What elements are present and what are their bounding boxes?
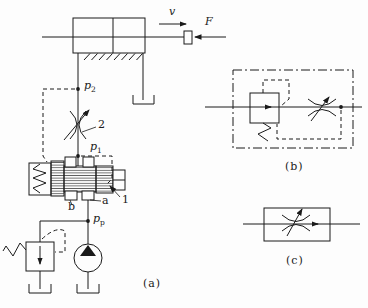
spring [258,123,271,141]
adjust-arrow [311,97,329,121]
hydraulic-circuit-figure: v F p2 p1 pp 2 1 b a (a) (b) (c) [0,0,368,308]
pump [74,244,102,272]
caption-a: (a) [143,278,161,289]
throttle-valve-2 [64,110,96,140]
port-b-label: b [68,201,75,212]
pressure-label-p1: p1 [90,141,102,155]
port-a-label: a [102,195,109,206]
adjust-arrow [64,110,89,140]
pressure-reducing-valve [250,93,279,141]
component-boundary [233,70,353,148]
return-line-tank [133,53,154,104]
velocity-text: v [169,5,175,18]
leader-a [90,200,101,201]
pressure-label-pp: pp [93,213,105,227]
caption-c: (c) [286,255,304,266]
node-pp [86,219,90,223]
port-b [65,191,77,200]
spring-chamber [29,163,51,195]
pressure-label-p2: p2 [84,80,96,94]
p2-sub: 2 [91,85,96,94]
adjust-arrow [287,209,302,236]
node-p1 [76,154,80,158]
pp-sub: p [100,218,105,227]
velocity-label: v [169,6,175,17]
pp-base: p [93,212,100,225]
flow-control-valve-1 [29,157,125,205]
throttle-symbol [282,209,310,236]
spring [33,164,46,193]
ground-hatching [84,54,143,61]
force-text: F [205,15,213,28]
valve-number-label: 1 [122,194,129,205]
caption-b: (b) [285,161,304,172]
throttle-number-label: 2 [98,119,105,130]
pilot-line-outlet [277,110,341,139]
top-port-left [65,157,76,167]
valve-body [64,166,96,192]
throttle-symbol [308,97,336,121]
pilot-line-p2 [43,89,75,162]
node-outlet [339,105,343,109]
node-p2 [76,87,80,91]
force-label: F [205,16,213,27]
p1-base: p [90,140,97,153]
load-block [184,31,192,44]
symbol-c-simplified [243,208,360,241]
port-a [82,191,94,200]
leader-2 [82,127,96,132]
circuit-a [3,18,226,293]
diagram-linework [0,0,368,308]
relief-branch-line [40,221,88,242]
relief-spring [3,243,26,256]
relief-valve [3,230,65,293]
symbol-b-flow-control-valve [205,70,362,148]
p2-base: p [84,79,91,92]
p1-sub: 1 [97,146,102,155]
top-port-right [83,157,94,167]
